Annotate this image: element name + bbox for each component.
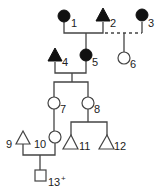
individual-label: 2	[110, 17, 116, 29]
individual-label: 4	[62, 56, 68, 68]
affected-triangle-symbol	[96, 8, 110, 21]
unaffected-triangle-symbol	[99, 135, 114, 149]
individual-label: 9	[6, 138, 12, 150]
individual-6[interactable]: 6	[118, 52, 136, 70]
individual-label: 13	[48, 176, 60, 188]
individual-8[interactable]: 8	[82, 97, 100, 115]
individual-4[interactable]: 4	[48, 48, 68, 68]
individual-10[interactable]: 10	[34, 131, 61, 150]
individual-label: 10	[34, 138, 46, 150]
affected-female-symbol	[58, 10, 70, 22]
individual-11[interactable]: 11	[63, 135, 90, 152]
individual-1[interactable]: 1	[58, 10, 77, 29]
individual-9[interactable]: 9	[6, 131, 30, 150]
individual-label: 11	[79, 140, 90, 152]
pedigree-diagram: 1 2 3 4 5 6 7 8 9 10 11 12	[0, 0, 161, 193]
individual-2[interactable]: 2	[96, 8, 116, 29]
affected-female-symbol	[136, 9, 148, 21]
individual-label: 3	[148, 17, 154, 29]
individual-13[interactable]: 13 +	[35, 170, 66, 188]
individual-12[interactable]: 12	[99, 135, 126, 152]
individual-label: 7	[60, 103, 66, 115]
individual-label: 5	[92, 56, 98, 68]
individual-5[interactable]: 5	[80, 49, 98, 68]
individual-label: 1	[71, 17, 77, 29]
unaffected-female-symbol	[118, 52, 130, 64]
affected-triangle-symbol	[48, 48, 62, 61]
individual-label: 8	[94, 103, 100, 115]
unaffected-female-symbol	[82, 97, 94, 109]
individual-3[interactable]: 3	[136, 9, 154, 29]
individual-7[interactable]: 7	[48, 97, 66, 115]
unaffected-square-symbol	[35, 170, 46, 181]
unaffected-triangle-symbol	[63, 135, 78, 149]
unaffected-female-symbol	[49, 131, 61, 143]
unaffected-female-symbol	[48, 97, 60, 109]
affected-female-symbol	[80, 49, 92, 61]
unaffected-triangle-symbol	[16, 131, 30, 144]
individual-label: 12	[114, 140, 126, 152]
individual-superscript: +	[61, 174, 66, 183]
individual-label: 6	[130, 58, 136, 70]
